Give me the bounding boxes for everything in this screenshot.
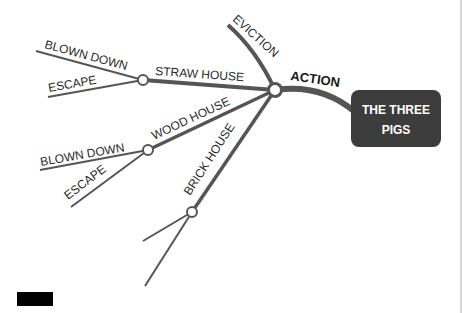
wood-node bbox=[143, 145, 153, 155]
central-topic-box bbox=[351, 90, 441, 147]
straw-node bbox=[138, 75, 148, 85]
mind-map-canvas: THE THREE PIGS ACTION EVICTION STRAW HOU… bbox=[0, 0, 462, 313]
central-topic-line2: PIGS bbox=[382, 123, 411, 137]
wood-blown-down-label: BLOWN DOWN bbox=[39, 140, 125, 169]
redaction-block bbox=[17, 292, 53, 306]
brick-node bbox=[187, 207, 197, 217]
straw-escape-label: ESCAPE bbox=[47, 73, 97, 95]
central-node bbox=[269, 84, 282, 97]
central-topic-line1: THE THREE bbox=[362, 103, 430, 117]
straw-blown-down-label: BLOWN DOWN bbox=[43, 37, 129, 73]
action-branch bbox=[275, 89, 355, 112]
